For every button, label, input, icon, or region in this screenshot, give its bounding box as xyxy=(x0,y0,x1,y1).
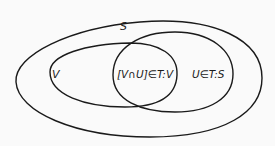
venn-diagram: S V [V∩U]∈T:V U∈T:S xyxy=(0,0,275,146)
set-s-label: S xyxy=(120,21,127,32)
set-u-label: U∈T:S xyxy=(192,69,224,80)
intersection-label: [V∩U]∈T:V xyxy=(117,69,173,80)
set-v-label: V xyxy=(52,69,60,80)
